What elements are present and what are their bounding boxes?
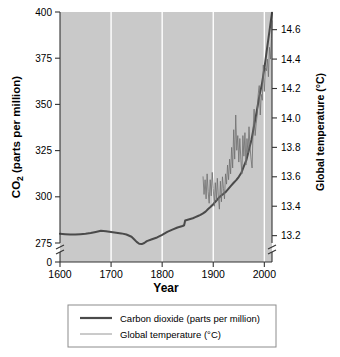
left-tick-label-375: 375 [35, 53, 52, 64]
x-tick-label-2000: 2000 [253, 268, 277, 280]
legend-label-carbon-dioxide: Carbon dioxide (parts per million) [120, 313, 260, 324]
left-tick-label-zero: 0 [46, 257, 52, 268]
right-tick-label-14.2: 14.2 [281, 83, 301, 94]
climate-chart: 2753003253503754000 13.213.413.613.814.0… [0, 0, 340, 357]
legend-box [68, 305, 276, 347]
x-tick-label-1900: 1900 [202, 268, 226, 280]
left-tick-label-325: 325 [35, 145, 52, 156]
x-tick-label-1600: 1600 [48, 268, 72, 280]
legend-label-global-temperature: Global temperature (°C) [120, 329, 221, 340]
left-tick-label-275: 275 [35, 238, 52, 249]
right-tick-label-14.4: 14.4 [281, 54, 301, 65]
x-axis-title: Year [153, 281, 179, 295]
right-tick-label-13.6: 13.6 [281, 171, 301, 182]
right-tick-label-14.0: 14.0 [281, 113, 301, 124]
right-tick-label-13.4: 13.4 [281, 201, 301, 212]
right-tick-label-13.2: 13.2 [281, 230, 301, 241]
left-tick-label-300: 300 [35, 191, 52, 202]
x-tick-label-1700: 1700 [99, 268, 123, 280]
legend: Carbon dioxide (parts per million) Globa… [68, 305, 276, 347]
y-axis-title-right: Global temperature (°C) [314, 73, 326, 191]
left-tick-label-350: 350 [35, 99, 52, 110]
x-tick-label-1800: 1800 [150, 268, 174, 280]
right-tick-label-13.8: 13.8 [281, 142, 301, 153]
left-tick-label-400: 400 [35, 7, 52, 18]
right-tick-label-14.6: 14.6 [281, 24, 301, 35]
plot-area-background [60, 12, 272, 262]
